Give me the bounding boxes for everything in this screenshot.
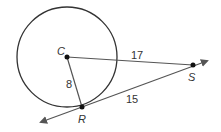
tangent-ray-forward xyxy=(82,61,207,107)
segment-cs xyxy=(67,57,193,65)
label-cr-length: 8 xyxy=(66,78,72,90)
label-rs-length: 15 xyxy=(126,93,138,105)
point-r xyxy=(80,105,85,110)
point-c xyxy=(65,55,70,60)
point-s xyxy=(191,63,196,68)
label-cs-length: 17 xyxy=(131,49,143,61)
label-s: S xyxy=(188,71,196,83)
tangent-ray-backward xyxy=(41,107,82,122)
label-r: R xyxy=(78,113,86,125)
geometry-diagram: C S R 17 8 15 xyxy=(0,0,221,132)
label-c: C xyxy=(57,45,65,57)
